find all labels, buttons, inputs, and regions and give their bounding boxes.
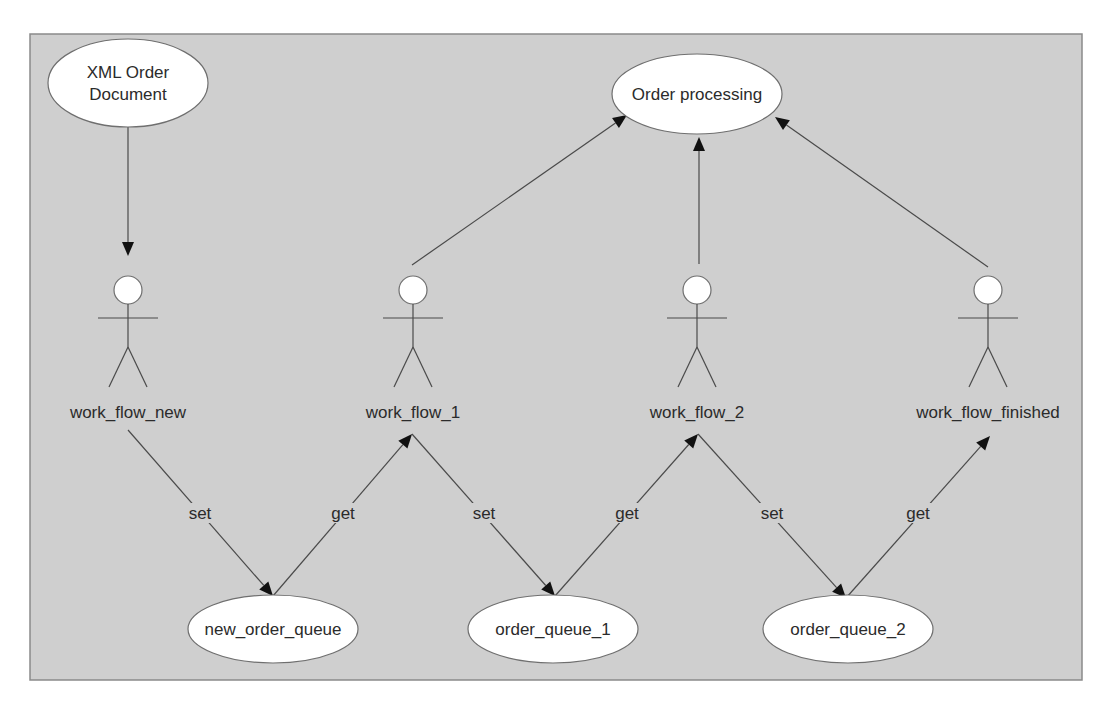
use-case-order-processing: Order processing	[612, 54, 782, 134]
use-case-order-queue-1: order_queue_1	[468, 595, 638, 663]
use-case-diagram: setgetsetgetsetget XML OrderDocumentOrde…	[0, 0, 1113, 709]
use-case-order-queue-2: order_queue_2	[763, 595, 933, 663]
actor-label: work_flow_finished	[915, 403, 1060, 422]
actor-label: work_flow_new	[69, 403, 187, 422]
edge-label-get: get	[615, 504, 639, 523]
use-case-label: order_queue_2	[790, 620, 905, 639]
use-case-label: new_order_queue	[204, 620, 341, 639]
diagram-frame	[30, 34, 1082, 680]
use-case-ellipse	[48, 39, 208, 127]
edge-label-get: get	[331, 504, 355, 523]
use-case-label: Order processing	[632, 85, 762, 104]
edge-label-set: set	[189, 504, 212, 523]
use-case-new-order-queue: new_order_queue	[188, 595, 358, 663]
actor-label: work_flow_1	[365, 403, 461, 422]
use-case-label: order_queue_1	[495, 620, 610, 639]
edge-label-set: set	[761, 504, 784, 523]
use-case-label: Document	[89, 85, 167, 104]
use-case-label: XML Order	[87, 63, 170, 82]
actor-label: work_flow_2	[649, 403, 745, 422]
edge-label-get: get	[906, 504, 930, 523]
use-case-xml-order-document: XML OrderDocument	[48, 39, 208, 127]
edge-label-set: set	[473, 504, 496, 523]
